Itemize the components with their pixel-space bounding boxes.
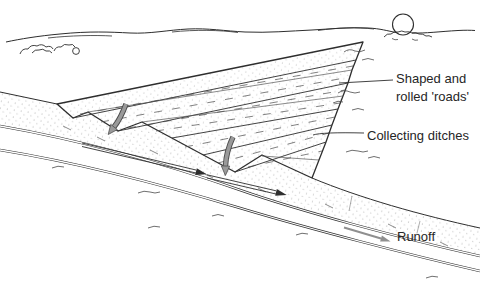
diagram-stage: Shaped and rolled 'roads' Collecting dit… bbox=[0, 0, 480, 290]
tree-icon bbox=[384, 14, 432, 40]
label-runoff: Runoff bbox=[397, 228, 435, 246]
label-shaped-rolled-roads: Shaped and rolled 'roads' bbox=[396, 70, 469, 106]
diagram-canvas bbox=[0, 0, 480, 290]
label-roads-line1: Shaped and bbox=[396, 70, 469, 88]
label-collecting-ditches: Collecting ditches bbox=[367, 127, 469, 145]
catchment-field bbox=[57, 42, 363, 178]
left-shrubs-icon bbox=[20, 44, 79, 54]
label-roads-line2: rolled 'roads' bbox=[396, 88, 469, 106]
